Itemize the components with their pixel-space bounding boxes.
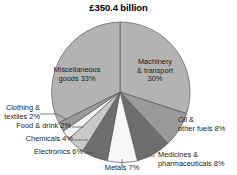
slice-label-metals: Metals 7% [96, 164, 148, 173]
slice-label-medicines-pharmaceuticals: Medicines & pharmaceuticals 8% [158, 151, 237, 168]
slice-label-oil-line2: other fuels 8% [178, 125, 237, 134]
slice-label-oil-other-fuels: Oil & other fuels 8% [178, 116, 237, 133]
slice-label-food-drink: Food & drink 2% [0, 122, 71, 131]
slice-label-misc-line2: goods 33% [42, 75, 112, 84]
slice-label-electronics: Electronics 6% [0, 148, 83, 157]
slice-label-clothing-textiles: Clothing & textiles 2% [0, 104, 40, 121]
slice-label-clothing-line2: textiles 2% [0, 113, 40, 122]
slice-label-medicines-line2: pharmaceuticals 8% [158, 160, 237, 169]
pie-chart-figure: £350.4 billion [0, 0, 237, 175]
slice-label-chemicals: Chemicals 4% [0, 135, 73, 144]
slice-label-machinery-transport: Machinery & transport 30% [124, 58, 186, 84]
slice-label-miscellaneous-goods: Miscellaneous goods 33% [42, 66, 112, 83]
slice-label-machinery-line3: 30% [124, 75, 186, 84]
